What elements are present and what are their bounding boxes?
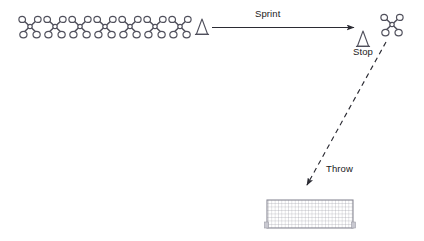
thrower-athlete-icon [381,14,403,36]
athlete-icon [19,16,41,38]
athlete-icon [144,16,166,38]
athlete-icon [169,16,191,38]
throw-label: Throw [326,164,353,174]
stop-label: Stop [353,47,373,57]
stop-cone-icon [356,31,369,46]
sprint-label: Sprint [255,9,280,19]
diagram-scene [0,0,424,241]
target-net [265,200,356,228]
athlete-icon [44,16,66,38]
target-net-mesh [267,200,353,228]
start-cone-icon [195,19,208,34]
target-net-right-foot [352,222,356,228]
athlete-icon [69,16,91,38]
target-net-left-foot [265,222,269,228]
athlete-icon [119,16,141,38]
athlete-queue [19,16,191,38]
athlete-icon [94,16,116,38]
diagram-canvas: Sprint Stop Throw [0,0,424,241]
